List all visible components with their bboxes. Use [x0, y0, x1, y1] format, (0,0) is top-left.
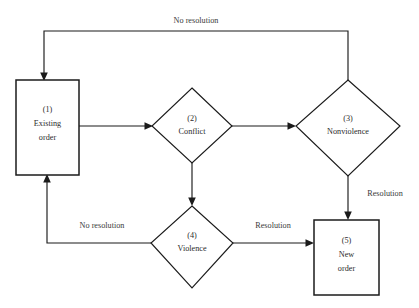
flowchart-canvas: (1) Existing order (2) Conflict (3) Nonv…	[0, 0, 419, 308]
node-conflict[interactable]: (2) Conflict	[152, 88, 232, 163]
node-new-order-number: (5)	[342, 236, 352, 245]
edge-conflict-to-nonviolence	[232, 122, 296, 130]
node-existing-order-line1: Existing	[34, 119, 61, 128]
node-new-order-line1: New	[339, 250, 355, 259]
node-existing-order-number: (1)	[43, 105, 53, 114]
node-new-order-line2: order	[338, 264, 356, 273]
node-new-order[interactable]: (5) New order	[314, 220, 379, 295]
node-nonviolence-number: (3)	[343, 114, 353, 123]
node-nonviolence[interactable]: (3) Nonviolence	[296, 80, 400, 176]
edge-label-resolution-violence: Resolution	[255, 221, 290, 230]
node-existing-order[interactable]: (1) Existing order	[16, 80, 79, 175]
edge-no-resolution-top	[40, 31, 348, 81]
node-existing-order-line2: order	[39, 133, 57, 142]
node-conflict-label: Conflict	[179, 127, 207, 136]
flowchart-diagram: (1) Existing order (2) Conflict (3) Nonv…	[0, 0, 419, 308]
edge-label-no-resolution-bottom: No resolution	[80, 221, 125, 230]
node-violence-label: Violence	[177, 244, 206, 253]
edge-violence-to-new-order	[233, 239, 314, 247]
node-violence[interactable]: (4) Violence	[151, 206, 233, 288]
edge-existing-order-to-conflict	[79, 122, 153, 130]
node-nonviolence-label: Nonviolence	[327, 127, 369, 136]
edge-nonviolence-to-new-order	[344, 176, 352, 220]
edge-label-no-resolution-top: No resolution	[174, 16, 219, 25]
node-violence-number: (4)	[187, 231, 197, 240]
edge-conflict-to-violence	[188, 163, 196, 206]
edge-no-resolution-bottom	[43, 174, 151, 243]
node-conflict-number: (2)	[187, 114, 197, 123]
edge-label-resolution-nonviolence: Resolution	[367, 189, 402, 198]
